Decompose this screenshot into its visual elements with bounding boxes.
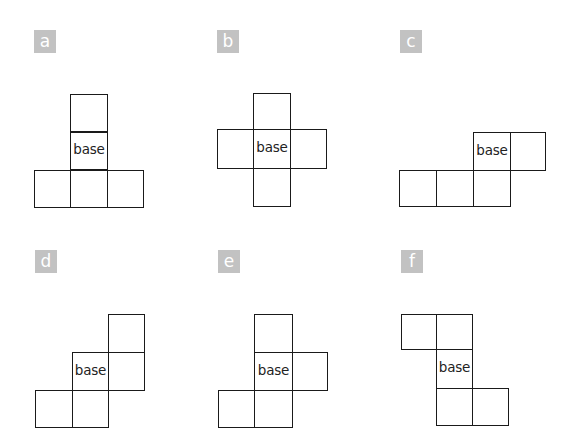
face-square bbox=[399, 170, 437, 207]
face-square bbox=[436, 314, 473, 350]
face-square bbox=[35, 390, 73, 428]
base-label: base bbox=[73, 362, 108, 378]
face-square bbox=[253, 93, 291, 130]
face-square bbox=[473, 170, 511, 207]
face-square bbox=[253, 168, 291, 207]
face-square bbox=[254, 314, 293, 353]
net-label-badge: d bbox=[35, 250, 57, 273]
net-label-badge: e bbox=[218, 250, 240, 273]
face-square bbox=[436, 170, 474, 207]
face-square bbox=[70, 170, 108, 208]
base-label: base bbox=[254, 139, 290, 155]
face-square bbox=[254, 390, 293, 428]
face-square bbox=[472, 388, 509, 426]
base-label: base bbox=[71, 141, 107, 157]
net-label-badge: c bbox=[400, 30, 422, 53]
face-square bbox=[218, 390, 255, 428]
base-label: base bbox=[255, 362, 292, 378]
face-square bbox=[34, 170, 71, 208]
base-label: base bbox=[437, 359, 472, 375]
base-square: base bbox=[254, 352, 293, 391]
base-square: base bbox=[70, 132, 108, 170]
face-square bbox=[290, 129, 327, 169]
face-square bbox=[292, 352, 328, 391]
face-square bbox=[401, 314, 437, 350]
face-square bbox=[108, 352, 145, 391]
net-label-badge: b bbox=[217, 30, 239, 53]
net-label-badge: f bbox=[401, 250, 423, 273]
base-label: base bbox=[474, 142, 510, 158]
base-square: base bbox=[72, 352, 109, 391]
base-square: base bbox=[253, 129, 291, 169]
face-square bbox=[70, 94, 108, 132]
face-square bbox=[72, 390, 109, 428]
net-label-badge: a bbox=[34, 30, 56, 53]
face-square bbox=[436, 388, 473, 426]
base-square: base bbox=[473, 132, 511, 171]
face-square bbox=[510, 132, 546, 171]
face-square bbox=[107, 170, 144, 208]
face-square bbox=[217, 129, 254, 169]
face-square bbox=[108, 314, 145, 353]
base-square: base bbox=[436, 349, 473, 389]
